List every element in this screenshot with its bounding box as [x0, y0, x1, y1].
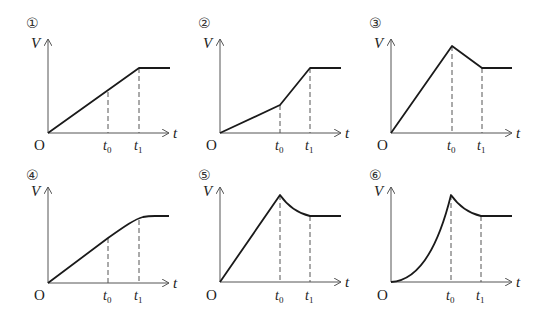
svg-text:t0: t0 [447, 138, 456, 155]
vt-curve [48, 68, 170, 133]
x-axis-label: t [345, 125, 350, 141]
panel-5: ⑤ V t O t0 t1 [198, 167, 350, 305]
y-axis-label: V [374, 35, 385, 51]
panel-4: ④ V t O t0 t1 [26, 167, 178, 305]
x-axis-label: t [173, 125, 178, 141]
origin-label: O [377, 287, 388, 303]
panel-marker: ⑥ [369, 167, 382, 183]
panel-marker: ④ [26, 167, 39, 183]
origin-label: O [34, 137, 45, 153]
svg-text:t0: t0 [446, 288, 455, 305]
panel-marker: ② [198, 15, 211, 31]
y-axis-label: V [31, 183, 42, 199]
y-axis-label: V [374, 183, 385, 199]
origin-label: O [377, 137, 388, 153]
svg-text:t0: t0 [275, 288, 284, 305]
y-axis-label: V [203, 183, 214, 199]
x-axis-label: t [173, 275, 178, 291]
svg-text:t1: t1 [305, 288, 313, 305]
panel-3: ③ V t O t0 t1 [369, 15, 521, 155]
x-axis-label: t [516, 274, 521, 290]
svg-text:t0: t0 [275, 138, 284, 155]
svg-text:t1: t1 [477, 138, 485, 155]
svg-text:t0: t0 [103, 138, 112, 155]
y-axis-label: V [203, 35, 214, 51]
panel-1: ① V t O t0 t1 [26, 15, 178, 155]
y-axis-label: V [31, 35, 42, 51]
origin-label: O [206, 287, 217, 303]
svg-text:t1: t1 [134, 138, 142, 155]
panel-marker: ③ [369, 15, 382, 31]
x-axis-label: t [516, 125, 521, 141]
panel-marker: ⑤ [198, 167, 211, 183]
origin-label: O [34, 287, 45, 303]
x-axis-label: t [345, 274, 350, 290]
svg-text:t1: t1 [305, 138, 313, 155]
origin-label: O [206, 137, 217, 153]
svg-text:t1: t1 [476, 288, 484, 305]
panel-marker: ① [26, 15, 39, 31]
svg-text:t1: t1 [134, 288, 142, 305]
panel-2: ② V t O t0 t1 [198, 15, 350, 155]
svg-text:t0: t0 [103, 288, 112, 305]
panel-6: ⑥ V t O t0 t1 [369, 167, 521, 305]
vt-graphs-figure: ① V t O t0 t1 ② V t O t0 t1 ③ V t O t0 t… [0, 0, 551, 320]
